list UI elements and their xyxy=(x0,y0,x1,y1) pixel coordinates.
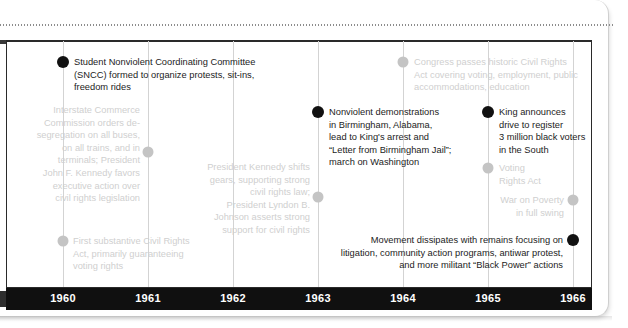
timeline-axis-bar xyxy=(6,288,592,310)
event-text-war-on-poverty-1966: War on Poverty in full swing xyxy=(468,194,564,219)
year-label-1963: 1963 xyxy=(305,292,331,304)
event-dot-kennedy-johnson-1963[interactable] xyxy=(313,192,324,203)
event-text-icc-desegregation-1961: Interstate Commerce Commission orders de… xyxy=(18,104,140,205)
page-bottom-shadow xyxy=(0,316,612,321)
event-dot-sncc-1960[interactable] xyxy=(57,56,69,68)
year-label-1960: 1960 xyxy=(50,292,76,304)
event-text-kennedy-johnson-1963: President Kennedy shifts gears, supporti… xyxy=(178,161,310,237)
event-dot-civil-rights-act-1964[interactable] xyxy=(398,57,409,68)
event-text-birmingham-1963: Nonviolent demonstrations in Birmingham,… xyxy=(329,106,499,169)
event-dot-birmingham-1963[interactable] xyxy=(312,106,324,118)
year-label-1966: 1966 xyxy=(560,292,586,304)
event-text-first-civil-rights-act-1960: First substantive Civil Rights Act, prim… xyxy=(73,235,243,273)
event-text-sncc-1960: Student Nonviolent Coordinating Committe… xyxy=(74,56,334,94)
event-dot-first-civil-rights-act-1960[interactable] xyxy=(58,236,69,247)
year-label-1965: 1965 xyxy=(475,292,501,304)
year-label-1964: 1964 xyxy=(390,292,416,304)
header-dotted-rule xyxy=(0,24,614,26)
event-text-movement-dissipates-1966: Movement dissipates with remains focusin… xyxy=(320,234,563,272)
event-dot-voting-rights-act-1965[interactable] xyxy=(483,163,494,174)
event-dot-movement-dissipates-1966[interactable] xyxy=(567,234,579,246)
event-text-civil-rights-act-1964: Congress passes historic Civil Rights Ac… xyxy=(414,56,604,94)
event-dot-king-voter-drive-1965[interactable] xyxy=(482,106,494,118)
event-dot-war-on-poverty-1966[interactable] xyxy=(568,195,579,206)
event-text-king-voter-drive-1965: King announces drive to register 3 milli… xyxy=(499,106,611,156)
event-text-voting-rights-act-1965: Voting Rights Act xyxy=(499,162,589,187)
year-label-1961: 1961 xyxy=(135,292,161,304)
event-dot-icc-desegregation-1961[interactable] xyxy=(143,147,154,158)
year-label-1962: 1962 xyxy=(220,292,246,304)
